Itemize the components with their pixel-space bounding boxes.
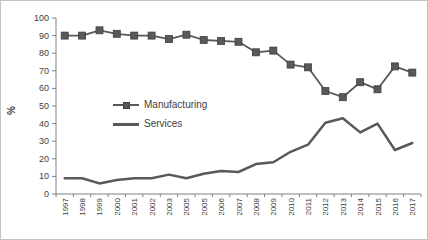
square-marker-icon	[123, 102, 130, 109]
svg-text:1998: 1998	[78, 197, 87, 215]
legend: Manufacturing Services	[113, 100, 207, 129]
svg-text:1999: 1999	[95, 197, 104, 215]
svg-text:50: 50	[39, 101, 49, 111]
svg-text:0: 0	[44, 189, 49, 199]
svg-text:30: 30	[39, 136, 49, 146]
svg-text:80: 80	[39, 48, 49, 58]
y-axis-title: %	[6, 106, 17, 115]
svg-text:2013: 2013	[339, 197, 348, 215]
svg-text:70: 70	[39, 66, 49, 76]
manufacturing-line-marker-icon	[113, 101, 139, 110]
svg-text:2000: 2000	[113, 197, 122, 215]
svg-text:100: 100	[34, 13, 49, 23]
svg-text:2001: 2001	[130, 197, 139, 215]
svg-text:2017: 2017	[408, 197, 417, 215]
svg-text:2009: 2009	[269, 197, 278, 215]
svg-text:2011: 2011	[304, 197, 313, 215]
svg-text:2012: 2012	[321, 197, 330, 215]
svg-text:40: 40	[39, 119, 49, 129]
services-line-icon	[113, 120, 139, 129]
svg-text:2014: 2014	[356, 197, 365, 215]
svg-text:2006: 2006	[217, 197, 226, 215]
svg-text:90: 90	[39, 31, 49, 41]
legend-item-services: Services	[113, 119, 207, 129]
svg-text:2002: 2002	[148, 197, 157, 215]
svg-text:2015: 2015	[374, 197, 383, 215]
svg-text:2010: 2010	[287, 197, 296, 215]
legend-label-services: Services	[144, 119, 182, 129]
svg-text:2008: 2008	[252, 197, 261, 215]
svg-text:2007: 2007	[235, 197, 244, 215]
chart-plot-area: 0102030405060708090100199719981999200020…	[1, 1, 428, 240]
line-chart: 0102030405060708090100199719981999200020…	[0, 0, 428, 240]
svg-text:2016: 2016	[391, 197, 400, 215]
svg-text:60: 60	[39, 83, 49, 93]
legend-item-manufacturing: Manufacturing	[113, 100, 207, 110]
svg-text:2003: 2003	[165, 197, 174, 215]
legend-label-manufacturing: Manufacturing	[144, 100, 207, 110]
svg-text:2005: 2005	[182, 197, 191, 215]
svg-text:2005: 2005	[200, 197, 209, 215]
svg-text:20: 20	[39, 154, 49, 164]
svg-text:1997: 1997	[61, 197, 70, 215]
svg-text:10: 10	[39, 171, 49, 181]
